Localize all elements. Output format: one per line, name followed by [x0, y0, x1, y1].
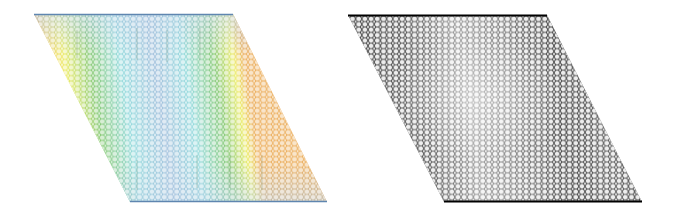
- grayscale-lattice-figure: [337, 0, 674, 218]
- colormap-lattice-figure: [0, 0, 337, 218]
- lattice-panel-colormap: Color-mapped honeycomb lattice: [0, 0, 337, 218]
- colormap-lattice-body: [0, 0, 337, 218]
- grayscale-lattice-body: [337, 0, 674, 218]
- lattice-panel-grayscale: Grayscale honeycomb lattice: [337, 0, 674, 218]
